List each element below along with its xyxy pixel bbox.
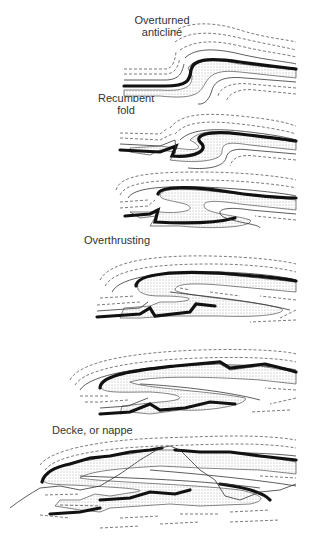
stage-recumbent-fold-tightened [116, 172, 296, 228]
fold-diagram [0, 0, 311, 540]
stage-overthrusting [97, 256, 296, 322]
stage-overthrust-advanced [70, 349, 296, 414]
stage-nappe [10, 436, 296, 528]
stage-recumbent-fold [120, 114, 296, 168]
stage-overturned-anticline [124, 24, 296, 104]
